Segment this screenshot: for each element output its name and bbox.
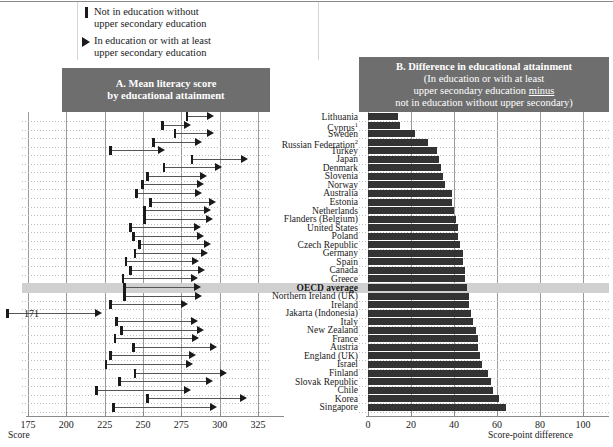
row-separator: [359, 412, 609, 413]
difference-bar: [368, 395, 499, 402]
range-connector: [105, 364, 186, 365]
difference-bar: [368, 344, 478, 351]
axis-tick-label: 80: [520, 419, 560, 430]
range-connector: [146, 398, 240, 399]
range-connector: [112, 407, 210, 408]
high-score-marker: [194, 223, 201, 231]
high-score-marker: [206, 377, 213, 385]
low-score-marker: [174, 129, 177, 138]
difference-bar: [368, 370, 488, 377]
difference-bar: [368, 352, 480, 359]
difference-bar: [368, 335, 478, 342]
high-score-marker: [197, 180, 204, 188]
difference-bar: [368, 293, 469, 300]
axis-tick: [454, 412, 455, 417]
high-score-marker: [204, 206, 211, 214]
panel-b-title-line-4: not in education without upper secondary…: [395, 97, 573, 109]
row-separator: [22, 403, 270, 404]
high-score-marker: [191, 274, 198, 282]
low-score-marker: [129, 266, 132, 275]
row-separator: [22, 369, 270, 370]
low-score-marker: [123, 292, 126, 301]
axis-tick: [143, 412, 144, 417]
low-score-marker: [125, 257, 128, 266]
high-score-marker: [206, 215, 213, 223]
axis-tick: [583, 412, 584, 417]
range-connector: [174, 133, 208, 134]
range-connector: [138, 244, 204, 245]
legend-line-1: In education or with at least: [94, 35, 211, 46]
difference-bar: [368, 147, 437, 154]
axis-tick-label: 60: [477, 419, 517, 430]
high-score-marker: [241, 155, 248, 163]
gridline: [220, 112, 221, 412]
range-connector: [95, 390, 184, 391]
row-separator: [22, 318, 270, 319]
country-label: Singapore: [250, 402, 358, 412]
low-score-marker: [146, 172, 149, 181]
range-connector: [120, 330, 197, 331]
row-separator: [22, 378, 270, 379]
low-score-marker: [120, 326, 123, 335]
range-connector: [109, 355, 189, 356]
difference-bar: [368, 378, 491, 385]
high-score-marker: [184, 121, 191, 129]
row-separator: [22, 352, 270, 353]
difference-bar: [368, 258, 463, 265]
panel-a-title: A. Mean literacy score by educational at…: [62, 68, 270, 112]
range-connector: [114, 338, 192, 339]
panel-b-axis-line: [366, 416, 609, 417]
range-connector: [134, 373, 220, 374]
legend-item-label: In education or with at least upper seco…: [94, 35, 211, 58]
range-connector: [122, 278, 191, 279]
high-score-marker: [220, 369, 227, 377]
row-separator: [22, 138, 270, 139]
high-score-marker: [201, 249, 208, 257]
gridline: [497, 112, 498, 412]
panel-a-title-line-1: A. Mean literacy score: [116, 78, 217, 90]
axis-tick-label: 325: [238, 419, 278, 430]
row-separator: [22, 266, 270, 267]
axis-tick: [105, 412, 106, 417]
legend-item-not-in-education: Not in education without upper secondary…: [78, 6, 318, 29]
gridline: [540, 112, 541, 412]
axis-tick-label: 175: [8, 419, 48, 430]
row-separator: [22, 232, 270, 233]
range-connector: [109, 150, 158, 151]
high-score-marker: [195, 138, 202, 146]
difference-bar: [368, 275, 465, 282]
row-separator: [22, 147, 270, 148]
high-score-marker: [240, 394, 247, 402]
range-connector: [129, 270, 198, 271]
low-score-marker: [146, 394, 149, 403]
difference-bar: [368, 404, 506, 411]
low-score-marker: [95, 386, 98, 395]
low-score-marker: [114, 334, 117, 343]
axis-tick: [28, 412, 29, 417]
low-score-marker: [191, 155, 194, 164]
legend-item-in-education: In education or with at least upper seco…: [78, 35, 318, 58]
difference-bar: [368, 224, 458, 231]
high-score-marker: [209, 198, 216, 206]
axis-tick-label: 20: [391, 419, 431, 430]
low-score-marker: [109, 300, 112, 309]
difference-bar: [368, 284, 467, 291]
difference-bar: [368, 387, 493, 394]
difference-bar: [368, 164, 441, 171]
axis-tick: [66, 412, 67, 417]
range-connector: [146, 176, 200, 177]
row-separator: [22, 258, 270, 259]
low-score-marker: [134, 249, 137, 258]
gridline: [583, 112, 584, 412]
range-connector: [123, 296, 195, 297]
gridline: [66, 112, 67, 412]
panel-b-title-minus: minus: [529, 85, 555, 96]
difference-bar: [368, 181, 445, 188]
range-connector: [132, 347, 210, 348]
low-score-marker: [149, 198, 152, 207]
high-score-marker: [200, 172, 207, 180]
legend-right-divider: [318, 2, 319, 60]
range-connector: [135, 193, 195, 194]
range-connector: [123, 287, 194, 288]
panel-b-title-line-1: B. Difference in educational attainment: [396, 61, 572, 73]
